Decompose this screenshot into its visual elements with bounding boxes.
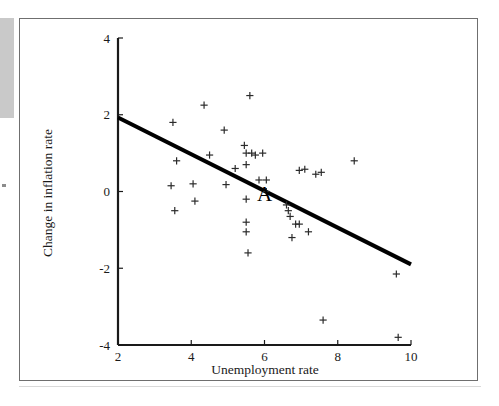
annotations-group: A	[257, 182, 273, 206]
data-point-marker	[169, 119, 176, 126]
data-point-marker	[320, 316, 327, 323]
data-point-marker	[171, 207, 178, 214]
data-point-marker	[206, 151, 213, 158]
data-point-marker	[200, 102, 207, 109]
data-point-marker	[246, 92, 253, 99]
x-axis-tick-label: 10	[405, 349, 418, 364]
data-point-marker	[305, 228, 312, 235]
data-point-marker	[395, 334, 402, 341]
data-point-marker	[243, 219, 250, 226]
data-point-marker	[287, 213, 294, 220]
data-point-marker	[296, 221, 303, 228]
y-axis-title: Change in inflation rate	[40, 93, 56, 293]
data-points-group	[168, 92, 402, 341]
figure-page: -4-2024246810 A Change in inflation rate…	[0, 0, 499, 406]
data-point-marker	[351, 157, 358, 164]
data-point-marker	[318, 169, 325, 176]
data-point-marker	[301, 166, 308, 173]
data-point-marker	[191, 197, 198, 204]
data-point-marker	[285, 207, 292, 214]
data-point-marker	[173, 157, 180, 164]
x-axis-tick-label: 2	[115, 349, 122, 364]
data-point-marker	[221, 127, 228, 134]
y-axis-tick-label: 4	[104, 31, 111, 46]
scatter-plot: -4-2024246810 A Change in inflation rate…	[0, 0, 499, 406]
point-annotation-label: A	[257, 182, 273, 206]
data-point-marker	[241, 142, 248, 149]
data-point-marker	[243, 161, 250, 168]
data-point-marker	[243, 228, 250, 235]
data-point-marker	[189, 180, 196, 187]
data-point-marker	[243, 196, 250, 203]
y-axis-tick-label: 0	[104, 184, 111, 199]
data-point-marker	[232, 165, 239, 172]
data-point-marker	[248, 150, 255, 157]
data-point-marker	[222, 181, 229, 188]
data-point-marker	[259, 150, 266, 157]
data-point-marker	[288, 234, 295, 241]
y-axis-tick-label: -2	[99, 261, 110, 276]
data-point-marker	[312, 171, 319, 178]
data-point-marker	[252, 151, 259, 158]
chart-canvas: -4-2024246810 A	[0, 0, 499, 406]
data-point-marker	[393, 270, 400, 277]
y-axis-tick-label: -4	[99, 338, 110, 353]
data-point-marker	[168, 182, 175, 189]
data-point-marker	[296, 167, 303, 174]
x-axis-title: Unemployment rate	[160, 362, 370, 378]
data-point-marker	[244, 249, 251, 256]
y-axis-tick-label: 2	[104, 107, 111, 122]
